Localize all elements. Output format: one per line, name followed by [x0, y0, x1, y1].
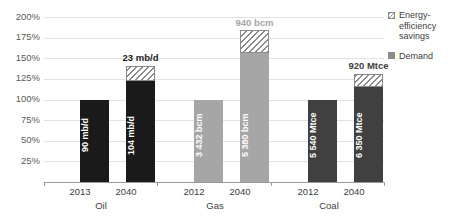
x-group-label-coal: Coal: [306, 200, 352, 211]
bar-coal-2012[interactable]: 5 540 Mtce: [308, 8, 337, 182]
y-tick-label: 100%: [2, 94, 40, 104]
x-axis-tick: [384, 182, 385, 186]
bar-coal-2040[interactable]: 6 350 Mtce 920 Mtce: [354, 8, 383, 182]
y-tick-label: 175%: [2, 32, 40, 42]
bar-gas-2040[interactable]: 5 380 bcm 940 bcm: [240, 8, 269, 182]
x-axis-tick: [271, 182, 272, 186]
bar-segment-savings: [126, 66, 155, 82]
cropped-title-remnant: [0, 0, 461, 5]
plot-area: 90 mb/d 104 mb/d 23 mb/d 3 432 bcm 5 380…: [44, 8, 384, 182]
legend-label-savings-line1: Energy-efficiency: [399, 10, 461, 31]
bar-value-label: 5 540 Mtce: [308, 93, 337, 177]
x-label-oil-2013: 2013: [57, 186, 103, 197]
y-tick-label: 125%: [2, 73, 40, 83]
bar-savings-label: 23 mb/d: [98, 52, 184, 63]
x-group-label-oil: Oil: [78, 200, 124, 211]
y-tick-label: 150%: [2, 53, 40, 63]
bar-oil-2013[interactable]: 90 mb/d: [80, 8, 109, 182]
y-tick-label: 25%: [2, 156, 40, 166]
energy-demand-savings-chart: 200% 175% 150% 125% 100% 75% 50% 25% 90 …: [0, 0, 461, 221]
x-axis-baseline: [44, 182, 384, 183]
x-label-gas-2040: 2040: [217, 186, 263, 197]
legend-label-savings-line2: savings: [399, 31, 461, 42]
x-axis-tick: [44, 182, 45, 186]
y-tick-label: 200%: [2, 12, 40, 22]
bar-segment-savings: [354, 74, 383, 87]
bar-value-label: 104 mb/d: [126, 93, 155, 177]
bar-value-label: 6 350 Mtce: [354, 93, 383, 177]
legend-label-demand: Demand: [399, 51, 461, 62]
bar-savings-label: 940 bcm: [212, 17, 298, 28]
bar-segment-savings: [240, 30, 269, 52]
bar-oil-2040[interactable]: 104 mb/d 23 mb/d: [126, 8, 155, 182]
x-axis-tick: [157, 182, 158, 186]
y-tick-label: 50%: [2, 135, 40, 145]
bar-value-label: 3 432 bcm: [194, 93, 223, 177]
bar-gas-2012[interactable]: 3 432 bcm: [194, 8, 223, 182]
y-tick-label: 75%: [2, 115, 40, 125]
x-label-oil-2040: 2040: [103, 186, 149, 197]
bar-value-label: 5 380 bcm: [240, 93, 269, 177]
x-label-coal-2012: 2012: [285, 186, 331, 197]
chart-legend: Energy-efficiency savings Demand: [388, 10, 461, 70]
y-axis: 200% 175% 150% 125% 100% 75% 50% 25%: [0, 0, 40, 221]
x-label-gas-2012: 2012: [171, 186, 217, 197]
bar-value-label: 90 mb/d: [80, 93, 109, 177]
x-label-coal-2040: 2040: [331, 186, 377, 197]
hatch-swatch-icon: [388, 12, 395, 19]
legend-item-demand[interactable]: Demand: [388, 51, 461, 62]
solid-swatch-icon: [388, 52, 395, 59]
x-group-label-gas: Gas: [192, 200, 238, 211]
legend-item-savings[interactable]: Energy-efficiency savings: [388, 10, 461, 42]
